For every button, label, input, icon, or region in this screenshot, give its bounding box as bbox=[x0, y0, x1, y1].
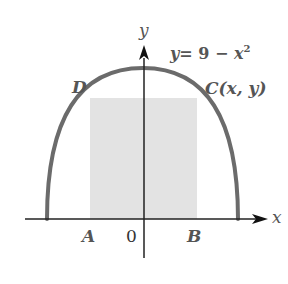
origin-label: 0 bbox=[126, 228, 137, 245]
x-axis-label: x bbox=[272, 209, 282, 226]
equation-var: x bbox=[234, 44, 244, 63]
point-b-label: B bbox=[187, 228, 201, 245]
parabola-rectangle-diagram: y x y= 9 − x2 D C(x, y) A 0 B bbox=[0, 0, 288, 284]
point-d-label: D bbox=[72, 79, 87, 96]
equation-rhs: = 9 − bbox=[179, 44, 234, 63]
y-axis-label: y bbox=[139, 22, 149, 39]
point-a-label: A bbox=[82, 228, 95, 245]
equation-label: y= 9 − x2 bbox=[170, 44, 250, 62]
point-c-label: C(x, y) bbox=[205, 80, 266, 97]
y-axis-arrow-icon bbox=[139, 45, 149, 60]
equation-lhs: y bbox=[170, 44, 179, 63]
equation-exponent: 2 bbox=[244, 43, 251, 54]
